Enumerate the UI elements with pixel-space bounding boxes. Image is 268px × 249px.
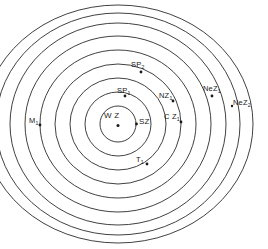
marker-dot-m1 [39, 124, 42, 127]
zone-label-wz-text: W Z [104, 111, 119, 120]
zone-label-sp1: SP1 [117, 87, 130, 95]
marker-dot-sz [135, 123, 138, 126]
zone-label-nz1-text: NZ [159, 91, 169, 100]
zone-label-nez2-text: NeZ [233, 98, 248, 107]
concentric-zone-diagram: W Z SZ SP1 NZ1 C Z1 SP2 T1 M1 NeZ1 NeZ2 [0, 0, 268, 249]
zone-label-m1: M1 [29, 117, 38, 125]
zone-label-nez1: NeZ1 [203, 85, 221, 93]
marker-dot-sp1 [124, 95, 127, 98]
zone-label-nz1: NZ1 [159, 92, 172, 100]
zone-label-sz: SZ [139, 118, 150, 126]
zone-label-nez2-sub: 2 [248, 102, 251, 108]
marker-dot-nz1 [172, 100, 175, 103]
zone-label-nz1-sub: 1 [169, 95, 172, 101]
zone-label-cz1: C Z1 [164, 113, 180, 121]
zone-label-sp2-text: SP [131, 60, 141, 69]
zone-label-nez1-sub: 1 [218, 88, 221, 94]
center-point-marker [117, 124, 120, 127]
zone-label-sp1-text: SP [117, 86, 127, 95]
zone-label-m1-sub: 1 [35, 120, 38, 126]
zone-label-sp2: SP2 [131, 61, 144, 69]
marker-dot-sp2 [140, 71, 143, 74]
zone-label-nez2: NeZ2 [233, 99, 251, 107]
marker-dot-t1 [146, 163, 149, 166]
zone-label-sp2-sub: 2 [141, 64, 144, 70]
zone-label-t1-sub: 1 [141, 159, 144, 165]
zone-label-sz-text: SZ [139, 117, 150, 126]
zone-label-nez1-text: NeZ [203, 84, 218, 93]
marker-dot-nez1 [211, 95, 214, 98]
zone-label-sp1-sub: 1 [127, 90, 130, 96]
zone-rings-svg [0, 0, 268, 249]
zone-label-cz1-sub: 1 [177, 116, 180, 122]
zone-label-t1: T1 [136, 156, 144, 164]
zone-label-wz: W Z [104, 112, 119, 120]
marker-dot-cz1 [180, 121, 183, 124]
zone-label-cz1-text: C Z [164, 112, 177, 121]
